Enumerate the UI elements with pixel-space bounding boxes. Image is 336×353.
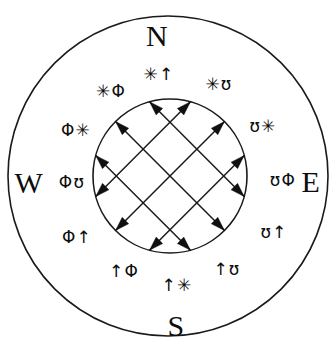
rune-wnw: Φ✳	[61, 122, 91, 139]
rune-e: ʊΦ	[270, 172, 296, 189]
cardinal-label-west: W	[15, 168, 44, 198]
rune-w: Φʊ	[59, 174, 85, 191]
rune-nne: ✳ʊ	[205, 76, 232, 93]
rune-ese: ʊ↑	[260, 224, 287, 241]
rune-n: ✳↑	[144, 66, 175, 83]
rune-sse: ↑ʊ	[213, 261, 240, 278]
arrow-lattice	[96, 102, 244, 250]
rune-wsw: Φ↑	[62, 229, 92, 246]
cardinal-label-east: E	[302, 167, 321, 197]
rune-s: ↑✳	[162, 277, 193, 294]
cardinal-label-south: S	[167, 311, 184, 341]
rune-ssw: ↑Φ	[109, 263, 139, 280]
rune-ene: ʊ✳	[249, 118, 276, 135]
compass-diagram-canvas: N E S W ✳Φ✳↑✳ʊΦ✳ʊ✳ΦʊʊΦΦ↑ʊ↑↑Φ↑✳↑ʊ	[0, 0, 336, 353]
cardinal-label-north: N	[146, 21, 168, 51]
rune-nnw: ✳Φ	[96, 83, 126, 100]
